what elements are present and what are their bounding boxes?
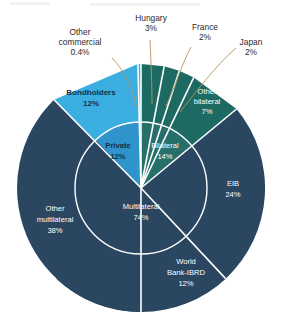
label-world-bank-line2: Bank-IBRD [167, 268, 205, 277]
label-other-bilateral-line2: bilateral [194, 97, 221, 106]
label-france-value: 2% [199, 32, 212, 42]
label-other-commercial-line1: Other [70, 27, 91, 37]
label-multilateral-value: 74% [133, 213, 148, 222]
pie-chart-figure: Other commercial 0.4% Hungary 3% France … [0, 0, 282, 331]
label-multilateral-name: Multilateral [123, 202, 160, 211]
label-bondholders-name: Bondholders [66, 88, 116, 97]
label-bondholders-value: 12% [83, 99, 99, 108]
label-japan-value: 2% [245, 47, 258, 57]
pie-chart-svg: Other commercial 0.4% Hungary 3% France … [0, 0, 282, 331]
label-other-commercial-value: 0.4% [70, 47, 90, 57]
label-inner-bilateral-name: Bilateral [151, 141, 179, 150]
label-other-bilateral-value: 7% [202, 107, 213, 116]
label-eib-name: EIB [227, 179, 239, 188]
label-private-name: Private [105, 141, 130, 150]
label-private-value: 12% [110, 152, 125, 161]
label-other-multilateral-line1: Other [46, 204, 65, 213]
label-inner-bilateral-value: 14% [157, 152, 172, 161]
label-other-multilateral-value: 38% [47, 226, 62, 235]
label-eib-value: 24% [225, 190, 240, 199]
label-other-bilateral-line1: Other [198, 87, 217, 96]
label-japan-name: Japan [240, 37, 263, 47]
label-hungary-value: 3% [145, 23, 158, 33]
label-other-multilateral-line2: multilateral [37, 215, 74, 224]
label-france-name: France [192, 22, 218, 32]
label-hungary-name: Hungary [135, 13, 167, 23]
label-world-bank-line1: World [176, 257, 196, 266]
label-world-bank-value: 12% [178, 279, 193, 288]
callout-labels: Other commercial 0.4% Hungary 3% France … [59, 13, 263, 57]
label-other-commercial-line2: commercial [59, 37, 102, 47]
